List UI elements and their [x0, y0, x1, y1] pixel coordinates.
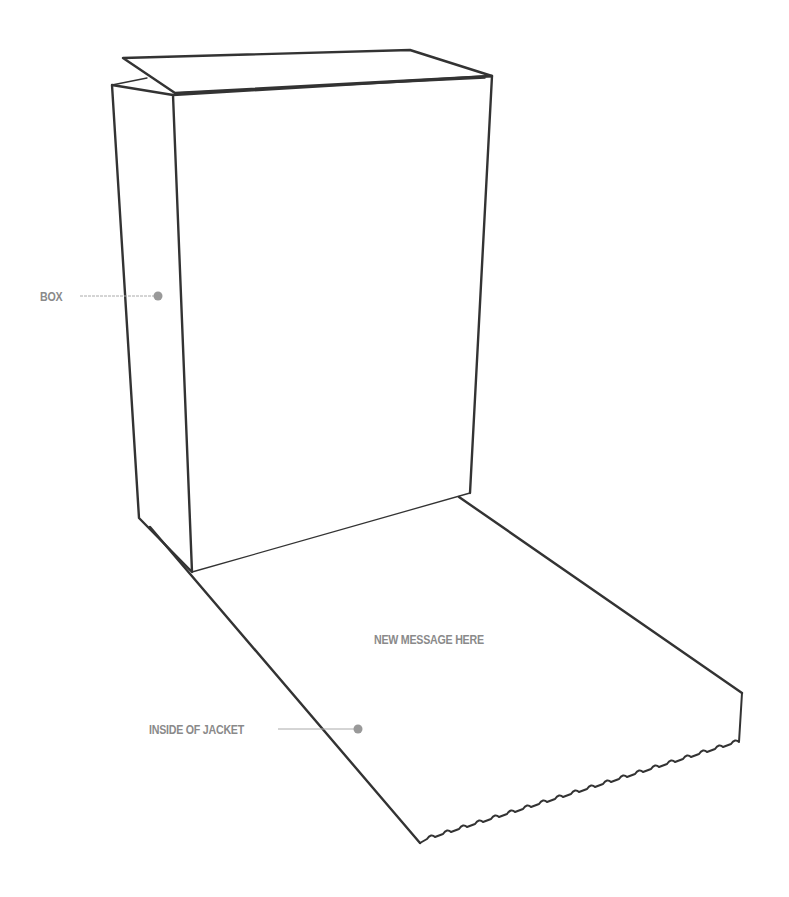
jacket-right-edge [459, 497, 742, 693]
jacket-serrated-edge [420, 693, 742, 843]
jacket-leader-dot [354, 725, 363, 734]
box-side-face [112, 85, 192, 572]
jacket-left-edge [150, 527, 420, 843]
box-leader-dot [154, 292, 163, 301]
box-jacket-diagram [0, 0, 789, 897]
box-label: BOX [40, 290, 62, 303]
box-back-edge [112, 78, 147, 85]
box-front-face [173, 76, 492, 493]
message-placeholder: NEW MESSAGE HERE [374, 633, 484, 646]
inside-jacket-label: INSIDE OF JACKET [149, 723, 244, 736]
box-front-bottom-edge [192, 493, 470, 572]
